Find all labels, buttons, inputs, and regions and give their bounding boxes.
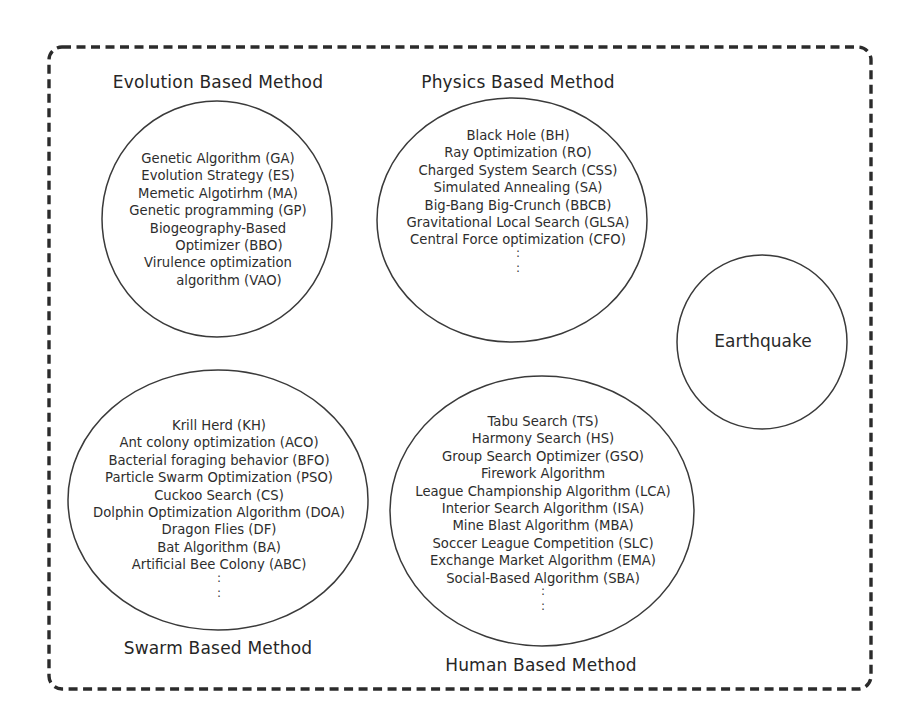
list-item: Krill Herd (KH) [93, 417, 345, 434]
list-item: Group Search Optimizer (GSO) [415, 448, 670, 465]
list-item: Dragon Flies (DF) [93, 521, 345, 538]
swarm-title: Swarm Based Method [124, 638, 313, 658]
list-item: Charged System Search (CSS) [406, 162, 629, 179]
list-item: Bacterial foraging behavior (BFO) [93, 452, 345, 469]
list-item: League Championship Algorithm (LCA) [415, 483, 670, 500]
physics-title: Physics Based Method [421, 72, 615, 92]
evolution-title: Evolution Based Method [113, 72, 323, 92]
list-item: Firework Algorithm [415, 465, 670, 482]
list-item: Simulated Annealing (SA) [406, 179, 629, 196]
list-item: Biogeography-Based [129, 220, 306, 237]
diagram-canvas [0, 0, 914, 728]
list-item: Cuckoo Search (CS) [93, 487, 345, 504]
list-item: Particle Swarm Optimization (PSO) [93, 469, 345, 486]
human-list: Tabu Search (TS) Harmony Search (HS) Gro… [415, 413, 670, 617]
list-item: Ray Optimization (RO) [406, 144, 629, 161]
more-ellipsis: : [93, 589, 345, 604]
list-item: Big-Bang Big-Crunch (BBCB) [406, 197, 629, 214]
physics-list: Black Hole (BH) Ray Optimization (RO) Ch… [406, 127, 629, 279]
list-item: Black Hole (BH) [406, 127, 629, 144]
list-item: Dolphin Optimization Algorithm (DOA) [93, 504, 345, 521]
list-item: Memetic Algotirhm (MA) [129, 185, 306, 202]
list-item: Tabu Search (TS) [415, 413, 670, 430]
more-ellipsis: : [406, 264, 629, 279]
list-item: Interior Search Algorithm (ISA) [415, 500, 670, 517]
list-item: Exchange Market Algorithm (EMA) [415, 552, 670, 569]
list-item: Gravitational Local Search (GLSA) [406, 214, 629, 231]
list-item: Genetic programming (GP) [129, 202, 306, 219]
more-ellipsis: : [415, 602, 670, 617]
list-item: Ant colony optimization (ACO) [93, 434, 345, 451]
list-item: Harmony Search (HS) [415, 430, 670, 447]
list-item: Soccer League Competition (SLC) [415, 535, 670, 552]
swarm-list: Krill Herd (KH) Ant colony optimization … [93, 417, 345, 604]
list-item: Optimizer (BBO) [129, 237, 306, 254]
list-item: Bat Algorithm (BA) [93, 539, 345, 556]
list-item: Virulence optimization [129, 254, 306, 271]
list-item: Mine Blast Algorithm (MBA) [415, 517, 670, 534]
evolution-list: Genetic Algorithm (GA) Evolution Strateg… [129, 150, 306, 289]
list-item: algorithm (VAO) [129, 272, 306, 289]
earthquake-label: Earthquake [714, 331, 811, 351]
list-item: Genetic Algorithm (GA) [129, 150, 306, 167]
human-title: Human Based Method [445, 655, 637, 675]
list-item: Evolution Strategy (ES) [129, 167, 306, 184]
